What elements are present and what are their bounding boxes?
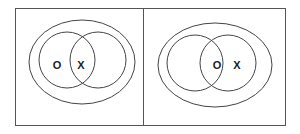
left-set-circle: [39, 32, 95, 88]
venn-diagram-figure: O X O X: [0, 0, 300, 134]
label-o: O: [53, 59, 62, 71]
right-panel: O X: [158, 23, 272, 107]
left-panel: O X: [29, 20, 135, 104]
label-o: O: [213, 59, 222, 71]
right-set-circle: [200, 35, 256, 91]
label-x: X: [77, 59, 85, 71]
label-x: X: [233, 59, 241, 71]
